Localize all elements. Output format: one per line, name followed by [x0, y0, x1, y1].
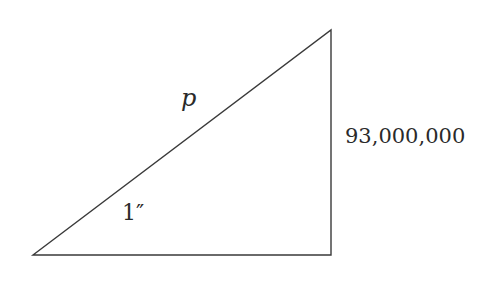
right-triangle — [33, 30, 331, 255]
vertical-side-label: 93,000,000 — [345, 124, 465, 148]
hypotenuse-label: p — [181, 84, 196, 112]
triangle-diagram: p 1″ 93,000,000 — [0, 0, 503, 281]
angle-label: 1″ — [122, 200, 144, 225]
